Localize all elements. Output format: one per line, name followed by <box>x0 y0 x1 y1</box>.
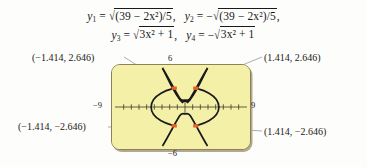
eq1-tail: , <box>173 10 176 22</box>
graph-plot <box>112 65 250 149</box>
callout-bottom-left: (−1.414, −2.646) <box>18 121 86 132</box>
eq3-tail: , <box>174 29 177 41</box>
eq1-subscript: 1 <box>92 15 96 24</box>
figure-root: y1 = √(39 − 2x²)/5, y2 = −√(39 − 2x²)/5,… <box>0 0 367 167</box>
callout-top-right: (1.414, 2.646) <box>264 52 321 63</box>
eq2-subscript: 2 <box>190 15 194 24</box>
y-axis-min-label: −6 <box>168 148 177 158</box>
x-axis-max-label: 9 <box>251 100 255 110</box>
intersection-point-top-right <box>193 87 198 90</box>
eq1-radical: √(39 − 2x²)/5 <box>109 8 173 24</box>
eq1-equals: = <box>99 10 106 22</box>
eq4-radical: √3x² + 1 <box>214 27 255 43</box>
callout-bottom-right: (1.414, −2.646) <box>264 126 326 137</box>
eq4-equals: = <box>198 29 205 41</box>
graphing-calculator-screen <box>111 64 251 150</box>
eq2-radical: √(39 − 2x²)/5 <box>213 8 277 24</box>
eq4-subscript: 4 <box>191 34 195 43</box>
eq2-equals: = <box>197 10 204 22</box>
eq4-radicand: 3x² + 1 <box>220 26 256 42</box>
y-axis-max-label: 6 <box>168 53 172 63</box>
eq3-subscript: 3 <box>117 34 121 43</box>
equation-block: y1 = √(39 − 2x²)/5, y2 = −√(39 − 2x²)/5,… <box>0 8 367 46</box>
intersection-point-bottom-left <box>172 124 177 127</box>
intersection-point-bottom-right <box>193 124 198 127</box>
eq3-equals: = <box>124 29 131 41</box>
x-axis-min-label: −9 <box>93 100 102 110</box>
eq2-tail: , <box>277 10 280 22</box>
callout-top-left: (−1.414, 2.646) <box>32 52 94 63</box>
eq2-radicand: (39 − 2x²)/5 <box>218 8 277 24</box>
eq2-sign: − <box>206 10 213 22</box>
intersection-point-top-left <box>172 87 177 90</box>
eq1-radicand: (39 − 2x²)/5 <box>114 8 173 24</box>
equation-line-2: y3 = √3x² + 1, y4 = −√3x² + 1 <box>0 27 367 46</box>
equation-line-1: y1 = √(39 − 2x²)/5, y2 = −√(39 − 2x²)/5, <box>0 8 367 27</box>
eq3-radical: √3x² + 1 <box>133 27 174 43</box>
eq3-radicand: 3x² + 1 <box>139 26 175 42</box>
